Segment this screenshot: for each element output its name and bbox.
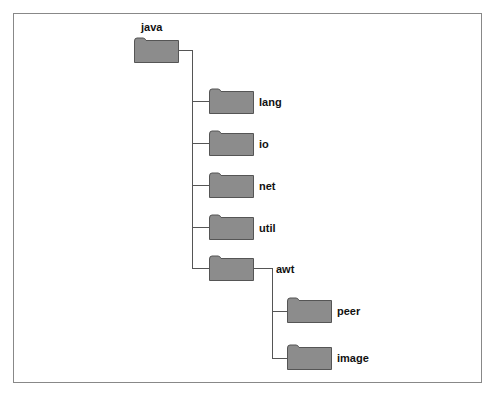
connector-java-vertical [192, 50, 193, 268]
connector-net [192, 185, 209, 186]
folder-label-image: image [337, 352, 369, 364]
folder-icon[interactable] [209, 130, 254, 156]
folder-label-java: java [141, 21, 162, 33]
folder-label-util: util [259, 222, 276, 234]
folder-icon[interactable] [209, 214, 254, 240]
connector-image [272, 358, 287, 359]
folder-icon[interactable] [209, 255, 254, 281]
connector-awt [192, 268, 209, 269]
folder-label-io: io [259, 138, 269, 150]
folder-icon[interactable] [209, 88, 254, 114]
diagram-frame [13, 13, 482, 383]
folder-icon[interactable] [287, 344, 332, 370]
connector-awt-vertical [272, 268, 273, 359]
folder-label-net: net [259, 180, 276, 192]
folder-label-lang: lang [259, 96, 282, 108]
connector-java-horizontal [178, 50, 193, 51]
folder-icon[interactable] [287, 297, 332, 323]
folder-icon[interactable] [209, 172, 254, 198]
connector-awt-horizontal [254, 268, 273, 269]
folder-label-awt: awt [276, 263, 294, 275]
connector-io [192, 143, 209, 144]
folder-label-peer: peer [337, 305, 360, 317]
connector-util [192, 227, 209, 228]
connector-peer [272, 311, 287, 312]
folder-icon[interactable] [134, 37, 179, 63]
connector-lang [192, 101, 209, 102]
